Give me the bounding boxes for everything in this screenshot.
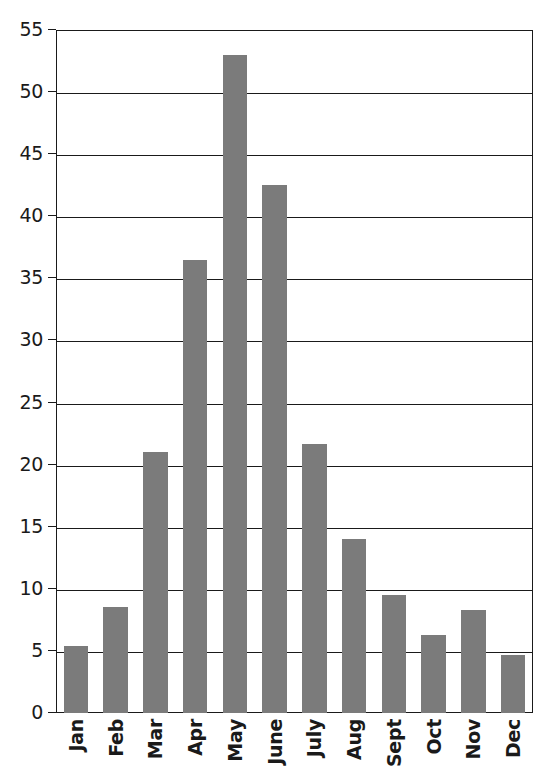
y-tick-label: 55: [20, 18, 43, 40]
x-axis-label-aug: Aug: [344, 719, 364, 760]
y-tick-mark: [48, 277, 56, 278]
gridline-35: [57, 279, 532, 280]
gridline-10: [57, 590, 532, 591]
y-tick-label: 45: [20, 142, 43, 164]
gridline-30: [57, 341, 532, 342]
y-tick-label: 35: [20, 266, 43, 288]
x-label-slot-dec: Dec: [493, 713, 533, 777]
x-axis-label-mar: Mar: [145, 719, 165, 759]
x-axis-labels: JanFebMarAprMayJuneJulyAugSeptOctNovDec: [56, 713, 533, 777]
y-tick-label: 40: [20, 204, 43, 226]
x-axis-label-nov: Nov: [463, 719, 483, 759]
x-label-slot-nov: Nov: [454, 713, 494, 777]
gridline-45: [57, 155, 532, 156]
gridline-5: [57, 652, 532, 653]
x-label-slot-oct: Oct: [414, 713, 454, 777]
x-label-slot-sept: Sept: [374, 713, 414, 777]
x-axis-label-feb: Feb: [106, 719, 126, 757]
gridlines: [57, 31, 532, 712]
gridline-50: [57, 93, 532, 94]
x-axis-label-oct: Oct: [424, 719, 444, 755]
plot-area: [56, 30, 533, 713]
x-axis-label-jan: Jan: [66, 719, 86, 752]
y-tick-mark: [48, 712, 56, 713]
gridline-25: [57, 404, 532, 405]
y-tick-mark: [48, 402, 56, 403]
bar-chart: 0510152025303540455055 JanFebMarAprMayJu…: [0, 0, 545, 777]
y-tick-label: 15: [20, 515, 43, 537]
x-label-slot-jan: Jan: [56, 713, 96, 777]
x-label-slot-may: May: [215, 713, 255, 777]
y-tick-mark: [48, 339, 56, 340]
x-label-slot-apr: Apr: [175, 713, 215, 777]
x-axis-label-apr: Apr: [185, 719, 205, 756]
y-tick-label: 0: [31, 701, 43, 723]
y-tick-label: 25: [20, 391, 43, 413]
gridline-40: [57, 217, 532, 218]
x-axis-label-july: July: [304, 719, 324, 757]
y-tick-mark: [48, 526, 56, 527]
x-label-slot-aug: Aug: [334, 713, 374, 777]
y-tick-label: 5: [31, 639, 43, 661]
gridline-20: [57, 466, 532, 467]
x-axis-label-sept: Sept: [384, 719, 404, 767]
x-label-slot-june: June: [255, 713, 295, 777]
y-tick-mark: [48, 588, 56, 589]
y-tick-mark: [48, 153, 56, 154]
y-tick-mark: [48, 29, 56, 30]
y-tick-mark: [48, 215, 56, 216]
x-axis-label-dec: Dec: [503, 719, 523, 758]
y-axis: 0510152025303540455055: [0, 30, 56, 713]
x-label-slot-mar: Mar: [136, 713, 176, 777]
x-axis-label-june: June: [265, 719, 285, 765]
y-tick-mark: [48, 650, 56, 651]
y-tick-label: 50: [20, 80, 43, 102]
y-tick-label: 20: [20, 453, 43, 475]
x-label-slot-july: July: [295, 713, 335, 777]
gridline-15: [57, 528, 532, 529]
y-tick-label: 10: [20, 577, 43, 599]
y-tick-mark: [48, 91, 56, 92]
x-label-slot-feb: Feb: [96, 713, 136, 777]
y-tick-mark: [48, 464, 56, 465]
y-tick-label: 30: [20, 328, 43, 350]
x-axis-label-may: May: [225, 719, 245, 762]
